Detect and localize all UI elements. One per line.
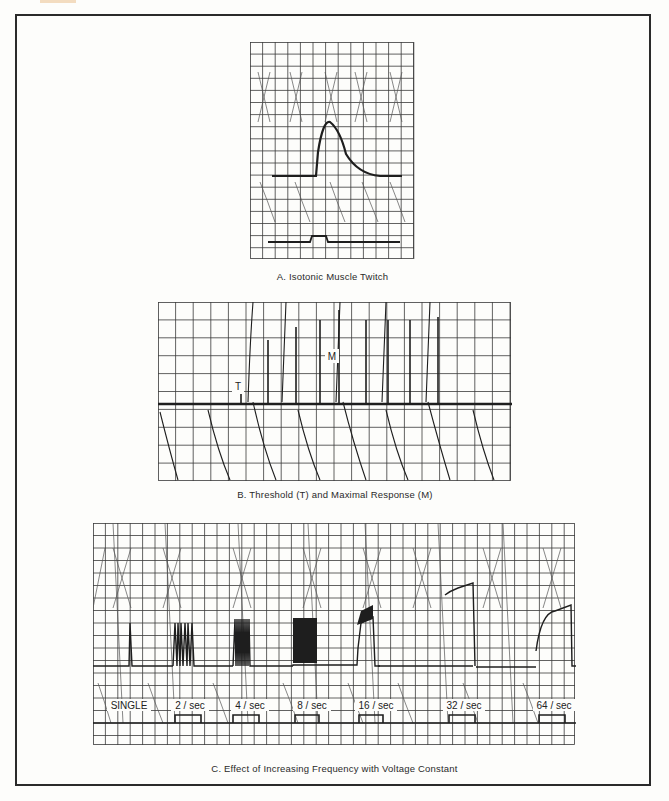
label-single: SINGLE [111, 700, 148, 711]
twitch-trace [272, 122, 402, 176]
caption-c: C. Effect of Increasing Frequency with V… [93, 763, 576, 774]
panel-c-chart: SINGLE 2 / sec 4 / sec 8 / sec 16 / sec … [93, 523, 576, 746]
tension-trace [93, 583, 576, 667]
panel-b-chart: T M [158, 302, 512, 482]
label-2-per-sec: 2 / sec [175, 700, 204, 711]
label-16-per-sec: 16 / sec [358, 700, 393, 711]
twitch-recording [250, 42, 415, 260]
stimulus-bar [93, 715, 576, 723]
threshold-recording: T M [158, 302, 512, 482]
tetanus-block [293, 618, 317, 663]
label-8-per-sec: 8 / sec [297, 700, 326, 711]
maximal-label: M [328, 351, 336, 362]
frequency-recording: SINGLE 2 / sec 4 / sec 8 / sec 16 / sec … [93, 523, 576, 746]
caption-b: B. Threshold (T) and Maximal Response (M… [158, 489, 512, 500]
label-4-per-sec: 4 / sec [235, 700, 264, 711]
page-tab-mark [40, 0, 76, 3]
panel-a-chart [250, 42, 415, 260]
fused-tetanus [357, 605, 373, 625]
grid-lines [250, 42, 414, 259]
timing-arcs [160, 302, 494, 480]
label-32-per-sec: 32 / sec [446, 700, 481, 711]
threshold-label: T [235, 381, 241, 392]
caption-a: A. Isotonic Muscle Twitch [250, 271, 415, 282]
response-spikes [241, 310, 438, 404]
label-64-per-sec: 64 / sec [536, 700, 571, 711]
grid-lines [158, 302, 511, 481]
